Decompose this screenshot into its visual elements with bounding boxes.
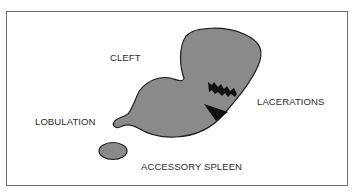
label-lacerations: LACERATIONS (257, 96, 324, 107)
label-lobulation: LOBULATION (35, 116, 95, 127)
spleen-body (113, 28, 261, 137)
label-cleft: CLEFT (110, 52, 141, 63)
accessory-spleen (99, 143, 127, 160)
label-accessory-spleen: ACCESSORY SPLEEN (141, 161, 242, 172)
